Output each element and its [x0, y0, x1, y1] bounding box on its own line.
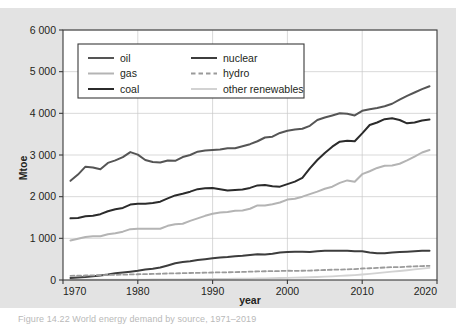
y-tick-label: 0 [50, 274, 56, 286]
legend-label-gas: gas [120, 67, 137, 79]
y-tick-label: 6 000 [30, 24, 56, 36]
x-axis-title: year [239, 294, 261, 306]
legend-label-nuclear: nuclear [223, 52, 258, 64]
y-tick-label: 5 000 [30, 65, 56, 77]
legend-label-hydro: hydro [223, 67, 249, 79]
legend-label-coal: coal [120, 83, 139, 95]
y-axis-title: Mtoe [17, 156, 29, 181]
figure-panel: 01 0002 0003 0004 0005 0006 000 19701980… [0, 8, 456, 308]
y-tick-label: 3 000 [30, 149, 56, 161]
x-tick-label: 2000 [276, 285, 300, 297]
chart-legend: oilnucleargashydrocoalother renewables [78, 44, 304, 98]
x-tick-label: 2020 [414, 285, 438, 297]
figure-caption-text: Figure 14.22 World energy demand by sour… [18, 314, 256, 324]
y-axis-tick-labels: 01 0002 0003 0004 0005 0006 000 [30, 24, 56, 286]
x-tick-label: 1990 [201, 285, 225, 297]
x-tick-label: 1970 [63, 285, 87, 297]
figure-caption: Figure 14.22 World energy demand by sour… [0, 314, 456, 327]
legend-label-oil: oil [120, 52, 131, 64]
y-tick-label: 4 000 [30, 107, 56, 119]
y-tick-label: 2 000 [30, 190, 56, 202]
legend-label-other-renewables: other renewables [223, 83, 304, 95]
y-tick-label: 1 000 [30, 232, 56, 244]
x-tick-label: 1980 [126, 285, 150, 297]
energy-demand-line-chart: 01 0002 0003 0004 0005 0006 000 19701980… [0, 8, 456, 308]
x-tick-label: 2010 [351, 285, 375, 297]
